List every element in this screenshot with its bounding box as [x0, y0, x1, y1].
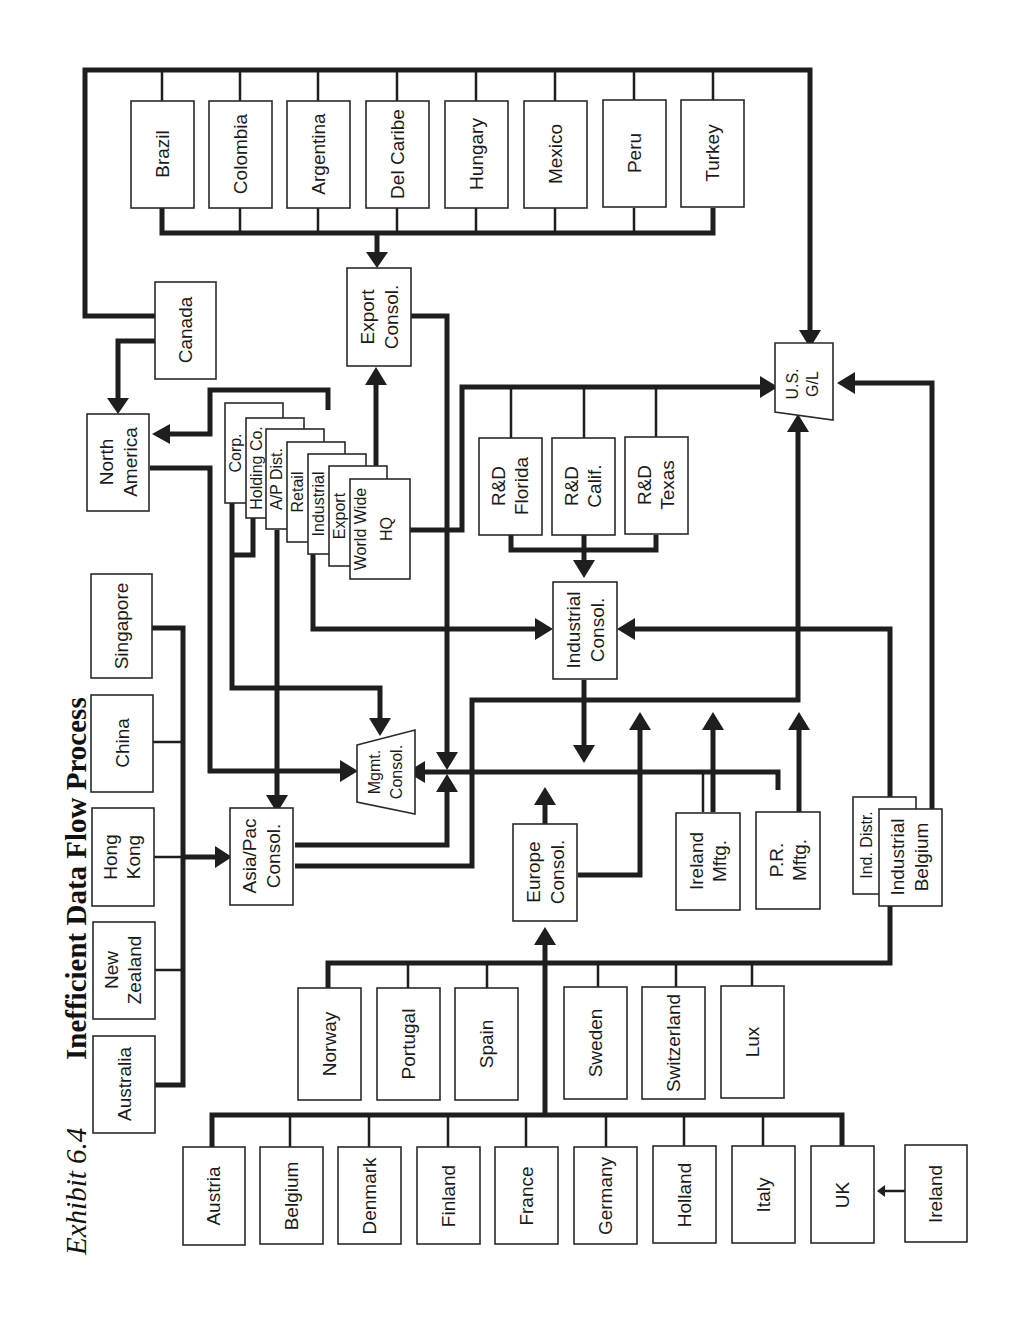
node-denmark[interactable]: Denmark: [338, 1147, 401, 1244]
svg-text:Industrial: Industrial: [563, 591, 584, 668]
svg-text:Mexico: Mexico: [545, 124, 566, 184]
node-canada[interactable]: Canada: [155, 282, 216, 379]
svg-text:France: France: [516, 1166, 537, 1225]
node-rd-calif[interactable]: R&D Calif.: [552, 438, 615, 535]
node-italy[interactable]: Italy: [732, 1146, 795, 1243]
node-mexico[interactable]: Mexico: [524, 101, 587, 208]
node-peru[interactable]: Peru: [603, 100, 666, 207]
svg-text:R&D: R&D: [634, 465, 655, 505]
node-brazil[interactable]: Brazil: [131, 101, 194, 208]
card-world-wide-hq[interactable]: World Wide HQ: [350, 479, 410, 579]
svg-text:Singapore: Singapore: [111, 583, 132, 670]
svg-text:Argentina: Argentina: [308, 113, 329, 195]
arrow-up-pr-mftg: [788, 712, 810, 730]
node-sweden[interactable]: Sweden: [564, 987, 627, 1099]
svg-text:Consol.: Consol.: [381, 285, 402, 349]
arrow-up-europe-right: [629, 712, 651, 730]
svg-text:G/L: G/L: [804, 371, 821, 397]
svg-text:Consol.: Consol.: [388, 745, 405, 799]
svg-text:Corp.: Corp.: [227, 433, 244, 472]
svg-text:Holland: Holland: [674, 1163, 695, 1227]
node-spain[interactable]: Spain: [455, 988, 518, 1100]
arrow-down-bus: [573, 745, 595, 763]
node-rd-florida[interactable]: R&D Florida: [479, 438, 542, 535]
node-belgium[interactable]: Belgium: [260, 1147, 323, 1244]
svg-text:Florida: Florida: [511, 457, 532, 516]
node-export-consol[interactable]: Export Consol.: [347, 268, 411, 366]
europe-mid-row: Norway Portugal Spain Sweden Switzerland…: [298, 986, 784, 1100]
node-norway[interactable]: Norway: [298, 988, 361, 1100]
node-rd-texas[interactable]: R&D Texas: [625, 437, 688, 534]
svg-text:Retail: Retail: [289, 472, 306, 513]
svg-text:China: China: [112, 718, 133, 768]
arrow-right-industrial-consol: [535, 618, 553, 640]
node-industrial-belgium[interactable]: Industrial Belgium: [879, 809, 942, 906]
asia-column: Singapore China Hong Kong New Zealand Au…: [91, 574, 155, 1133]
svg-text:Australia: Australia: [114, 1047, 135, 1121]
svg-text:HQ: HQ: [378, 517, 395, 541]
node-finland[interactable]: Finland: [417, 1147, 480, 1244]
node-mgmt-consol[interactable]: Mgmt. Consol.: [357, 730, 415, 814]
node-holland[interactable]: Holland: [653, 1146, 716, 1243]
svg-text:Ind. Distr.: Ind. Distr.: [858, 811, 875, 879]
node-pr-mftg[interactable]: P.R. Mftg.: [756, 812, 820, 909]
svg-text:Consol.: Consol.: [587, 598, 608, 662]
exhibit-number: Exhibit 6.4: [60, 1128, 92, 1256]
arrow-left-north-america: [152, 424, 170, 444]
arrow-up-ireland-mftg: [702, 712, 724, 730]
node-industrial-consol[interactable]: Industrial Consol.: [553, 582, 617, 679]
node-europe-consol[interactable]: Europe Consol.: [513, 824, 577, 921]
node-austria[interactable]: Austria: [183, 1147, 245, 1245]
node-ireland[interactable]: Ireland: [905, 1145, 967, 1242]
node-argentina[interactable]: Argentina: [287, 101, 350, 208]
svg-text:Europe: Europe: [523, 841, 544, 902]
svg-text:Austria: Austria: [203, 1166, 224, 1226]
svg-text:Mftg.: Mftg.: [709, 840, 730, 882]
latam-row: Brazil Colombia Argentina Del Caribe Hun…: [131, 100, 744, 208]
node-new-zealand[interactable]: New Zealand: [93, 922, 155, 1019]
node-asiapac-consol[interactable]: Asia/Pac Consol.: [230, 808, 293, 905]
node-china[interactable]: China: [91, 695, 153, 792]
node-north-america[interactable]: North America: [87, 414, 149, 511]
svg-text:Switzerland: Switzerland: [663, 994, 684, 1092]
arrow-down-industrial-consol: [573, 560, 595, 578]
europe-low-row: Austria Belgium Denmark Finland France G…: [183, 1145, 967, 1245]
node-ireland-mftg[interactable]: Ireland Mftg.: [676, 813, 740, 910]
arrow-down-north-america: [107, 398, 129, 414]
node-lux[interactable]: Lux: [721, 986, 784, 1098]
svg-text:Canada: Canada: [175, 296, 196, 363]
exhibit-title: Exhibit 6.4 Inefficient Data Flow Proces…: [60, 697, 92, 1256]
svg-text:Hungary: Hungary: [466, 118, 487, 190]
svg-text:A/P Dist.: A/P Dist.: [268, 448, 285, 510]
node-uk[interactable]: UK: [811, 1146, 874, 1243]
node-us-gl[interactable]: U.S. G/L: [775, 343, 833, 420]
node-del-caribe[interactable]: Del Caribe: [366, 101, 429, 208]
node-france[interactable]: France: [495, 1147, 558, 1244]
svg-text:R&D: R&D: [488, 466, 509, 506]
svg-text:Consol.: Consol.: [547, 840, 568, 904]
svg-text:Lux: Lux: [742, 1026, 763, 1057]
node-switzerland[interactable]: Switzerland: [642, 987, 705, 1099]
svg-text:Germany: Germany: [595, 1156, 616, 1235]
svg-text:Ireland: Ireland: [686, 832, 707, 890]
node-hungary[interactable]: Hungary: [445, 101, 508, 208]
node-australia[interactable]: Australia: [93, 1036, 155, 1133]
svg-text:Del Caribe: Del Caribe: [387, 109, 408, 199]
svg-text:Peru: Peru: [624, 133, 645, 173]
svg-text:Export: Export: [331, 492, 348, 539]
node-turkey[interactable]: Turkey: [681, 100, 744, 207]
svg-text:Holding Co.: Holding Co.: [248, 426, 265, 510]
svg-text:Brazil: Brazil: [152, 130, 173, 178]
svg-text:Texas: Texas: [657, 460, 678, 510]
svg-text:Consol.: Consol.: [263, 824, 284, 888]
svg-text:Colombia: Colombia: [230, 113, 251, 194]
arrow-down-mgmt-consol: [369, 718, 391, 736]
svg-text:Ireland: Ireland: [925, 1165, 946, 1223]
node-portugal[interactable]: Portugal: [377, 988, 440, 1100]
node-germany[interactable]: Germany: [574, 1147, 637, 1244]
svg-text:Asia/Pac: Asia/Pac: [239, 819, 260, 894]
svg-text:New: New: [101, 951, 122, 989]
node-colombia[interactable]: Colombia: [209, 101, 272, 208]
node-hong-kong[interactable]: Hong Kong: [92, 808, 154, 906]
node-singapore[interactable]: Singapore: [91, 574, 152, 678]
